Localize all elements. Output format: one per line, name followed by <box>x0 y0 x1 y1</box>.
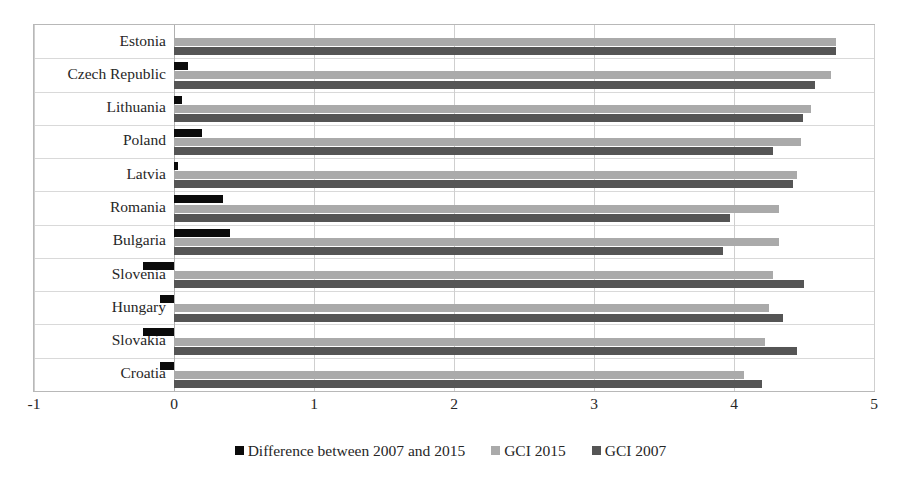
x-tick-label: -1 <box>28 396 41 412</box>
bar <box>174 380 762 388</box>
bar <box>174 271 773 279</box>
bar <box>174 96 182 104</box>
legend-label: GCI 2007 <box>605 443 667 459</box>
bar <box>143 328 174 336</box>
bar <box>160 362 174 370</box>
bar <box>174 38 836 46</box>
bar <box>174 138 801 146</box>
bar <box>174 195 223 203</box>
bar <box>174 180 793 188</box>
bar <box>174 247 723 255</box>
legend-item[interactable]: Difference between 2007 and 2015 <box>235 443 466 459</box>
legend-swatch-icon <box>491 446 500 455</box>
bar-chart: EstoniaCzech RepublicLithuaniaPolandLatv… <box>0 0 901 485</box>
bar <box>174 304 769 312</box>
bar <box>174 71 831 79</box>
legend-label: Difference between 2007 and 2015 <box>248 443 466 459</box>
bar <box>174 114 803 122</box>
bar <box>160 295 174 303</box>
bar <box>174 105 811 113</box>
bar <box>174 205 779 213</box>
bar <box>174 338 765 346</box>
bar <box>174 62 188 70</box>
x-tick-label: 2 <box>450 396 458 412</box>
legend-item[interactable]: GCI 2007 <box>592 443 667 459</box>
bar <box>174 314 783 322</box>
value-axis-tick-labels: -1012345 <box>0 396 901 422</box>
bar <box>174 238 779 246</box>
chart-legend: Difference between 2007 and 2015GCI 2015… <box>0 443 901 459</box>
x-tick-label: 1 <box>310 396 318 412</box>
x-tick-label: 3 <box>590 396 598 412</box>
x-tick-label: 5 <box>870 396 878 412</box>
legend-label: GCI 2015 <box>504 443 566 459</box>
bar <box>174 81 815 89</box>
gridline <box>874 25 875 391</box>
bar <box>143 262 174 270</box>
x-tick-label: 4 <box>730 396 738 412</box>
bar <box>174 129 202 137</box>
bar <box>174 229 230 237</box>
legend-swatch-icon <box>235 446 244 455</box>
bar <box>174 162 178 170</box>
bar <box>174 371 744 379</box>
bar <box>174 280 804 288</box>
legend-item[interactable]: GCI 2015 <box>491 443 566 459</box>
bar <box>174 171 797 179</box>
bar <box>174 147 773 155</box>
x-tick-label: 0 <box>170 396 178 412</box>
bar <box>174 47 836 55</box>
bar <box>174 214 730 222</box>
bars-layer <box>34 25 874 391</box>
bar <box>174 347 797 355</box>
legend-swatch-icon <box>592 446 601 455</box>
